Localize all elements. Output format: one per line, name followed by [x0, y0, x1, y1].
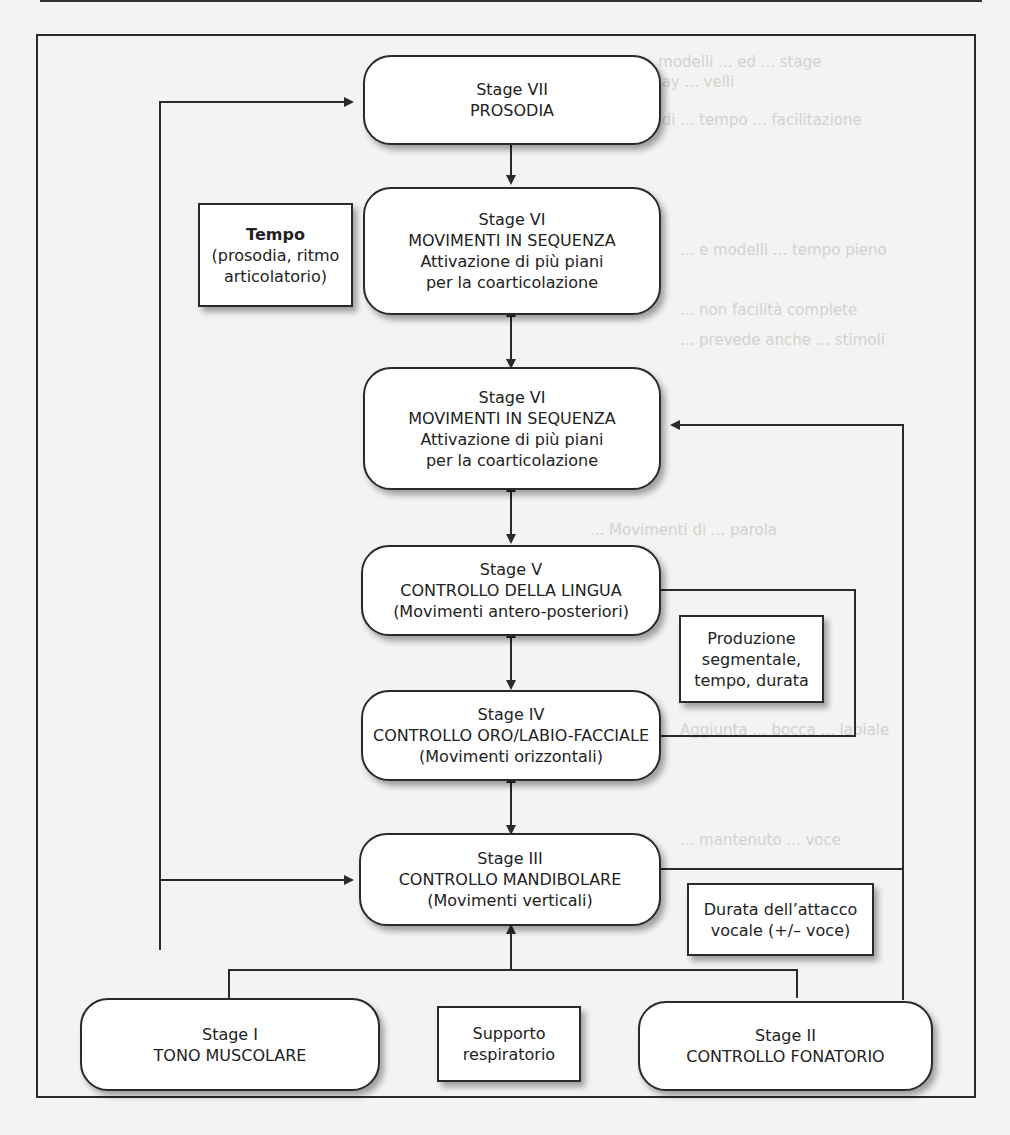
note-line: respiratorio — [463, 1044, 555, 1065]
stage-line: per la coarticolazione — [426, 450, 598, 471]
figure-caption-truncated — [34, 1118, 694, 1135]
stage-line: MOVIMENTI IN SEQUENZA — [408, 230, 616, 251]
note-line: Produzione — [707, 628, 795, 649]
stage-line: (Movimenti antero-posteriori) — [393, 601, 629, 622]
stage-ii-box: Stage II CONTROLLO FONATORIO — [638, 1001, 933, 1091]
stage-title: Stage VI — [479, 209, 546, 230]
stage-line: Attivazione di più piani — [420, 251, 603, 272]
stage-title: Stage I — [202, 1024, 258, 1045]
stage-line: CONTROLLO ORO/LABIO-FACCIALE — [373, 725, 649, 746]
durata-note: Durata dell’attacco vocale (+/– voce) — [687, 883, 874, 956]
note-line: Supporto — [472, 1023, 545, 1044]
stage-line: TONO MUSCOLARE — [154, 1045, 307, 1066]
stage-line: CONTROLLO MANDIBOLARE — [399, 869, 622, 890]
stage-title: Stage VII — [476, 79, 548, 100]
produzione-note: Produzione segmentale, tempo, durata — [679, 615, 824, 703]
stage-line: CONTROLLO FONATORIO — [686, 1046, 884, 1067]
stage-v-box: Stage V CONTROLLO DELLA LINGUA (Moviment… — [361, 545, 661, 636]
stage-line: MOVIMENTI IN SEQUENZA — [408, 408, 616, 429]
stage-iv-box: Stage IV CONTROLLO ORO/LABIO-FACCIALE (M… — [361, 690, 661, 781]
note-title: Tempo — [246, 224, 305, 245]
stage-vii-box: Stage VII PROSODIA — [363, 55, 661, 145]
stage-title: Stage V — [480, 559, 542, 580]
stage-line: per la coarticolazione — [426, 272, 598, 293]
stage-title: Stage II — [755, 1025, 816, 1046]
note-line: Durata dell’attacco — [704, 899, 858, 920]
note-line: tempo, durata — [694, 670, 809, 691]
stage-line: (Movimenti orizzontali) — [419, 746, 603, 767]
stage-title: Stage IV — [478, 704, 545, 725]
stage-i-box: Stage I TONO MUSCOLARE — [80, 998, 380, 1091]
stage-line: Attivazione di più piani — [420, 429, 603, 450]
note-line: (prosodia, ritmo — [212, 245, 340, 266]
stage-line: PROSODIA — [470, 100, 554, 121]
stage-iii-box: Stage III CONTROLLO MANDIBOLARE (Movimen… — [359, 833, 661, 926]
note-line: articolatorio) — [224, 266, 327, 287]
stage-title: Stage III — [477, 848, 542, 869]
stage-vi-a-box: Stage VI MOVIMENTI IN SEQUENZA Attivazio… — [363, 187, 661, 315]
tempo-note: Tempo (prosodia, ritmo articolatorio) — [198, 203, 353, 307]
note-line: vocale (+/– voce) — [711, 920, 851, 941]
supporto-note: Supporto respiratorio — [437, 1006, 581, 1082]
stage-line: (Movimenti verticali) — [427, 890, 592, 911]
note-line: segmentale, — [702, 649, 801, 670]
stage-vi-b-box: Stage VI MOVIMENTI IN SEQUENZA Attivazio… — [363, 367, 661, 490]
stage-title: Stage VI — [479, 387, 546, 408]
stage-line: CONTROLLO DELLA LINGUA — [400, 580, 621, 601]
